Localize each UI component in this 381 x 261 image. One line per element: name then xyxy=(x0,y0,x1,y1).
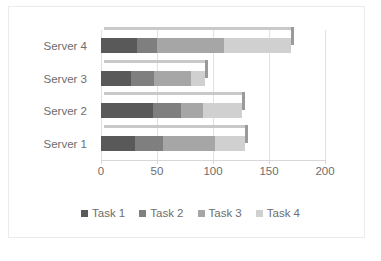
bar-segment-task-4[interactable] xyxy=(191,71,206,86)
bar-segment-task-2[interactable] xyxy=(131,71,153,86)
legend-swatch-icon xyxy=(256,210,263,217)
bar-row xyxy=(101,95,325,128)
legend-label: Task 1 xyxy=(92,207,125,219)
gridline-200 xyxy=(325,30,326,160)
bar-segment-task-3[interactable] xyxy=(163,136,216,151)
value-tick-mark xyxy=(101,160,102,164)
bar-segment-task-2[interactable] xyxy=(135,136,163,151)
value-tick-label: 50 xyxy=(151,165,164,177)
bar-segment-task-4[interactable] xyxy=(215,136,245,151)
bar-segment-task-2[interactable] xyxy=(137,38,157,53)
bar-segment-task-1[interactable] xyxy=(101,136,135,151)
bar-row xyxy=(101,128,325,161)
category-label: Server 1 xyxy=(44,128,87,161)
bar-segment-task-3[interactable] xyxy=(181,103,203,118)
stacked-bar[interactable] xyxy=(101,136,245,151)
bar-bevel-side xyxy=(242,92,245,110)
legend-item-task-2[interactable]: Task 2 xyxy=(139,207,183,219)
category-label: Server 2 xyxy=(44,95,87,128)
bars-layer xyxy=(101,30,325,160)
bar-bevel-side xyxy=(245,125,248,143)
legend-swatch-icon xyxy=(81,210,88,217)
bar-segment-task-4[interactable] xyxy=(224,38,291,53)
value-tick-mark xyxy=(325,160,326,164)
legend-item-task-1[interactable]: Task 1 xyxy=(81,207,125,219)
value-axis-labels: 050100150200 xyxy=(0,165,381,185)
bar-chart: Server 4Server 3Server 2Server 1 0501001… xyxy=(0,0,381,261)
legend-swatch-icon xyxy=(198,210,205,217)
value-tick-label: 100 xyxy=(203,165,222,177)
bar-segment-task-2[interactable] xyxy=(153,103,181,118)
bar-bevel-top xyxy=(104,92,245,95)
bar-segment-task-3[interactable] xyxy=(157,38,224,53)
bar-bevel-top xyxy=(104,125,248,128)
bar-segment-task-3[interactable] xyxy=(154,71,191,86)
value-tick-label: 0 xyxy=(98,165,104,177)
stacked-bar[interactable] xyxy=(101,71,205,86)
stacked-bar[interactable] xyxy=(101,103,242,118)
value-tick-mark xyxy=(213,160,214,164)
value-tick-mark xyxy=(157,160,158,164)
bar-segment-task-1[interactable] xyxy=(101,38,137,53)
legend-label: Task 4 xyxy=(267,207,300,219)
bar-segment-task-1[interactable] xyxy=(101,103,153,118)
bar-bevel-top xyxy=(104,60,208,63)
legend-swatch-icon xyxy=(139,210,146,217)
bar-segment-task-1[interactable] xyxy=(101,71,131,86)
legend-item-task-3[interactable]: Task 3 xyxy=(198,207,242,219)
legend-label: Task 3 xyxy=(209,207,242,219)
value-tick-mark xyxy=(269,160,270,164)
category-label: Server 3 xyxy=(44,63,87,96)
stacked-bar[interactable] xyxy=(101,38,291,53)
bar-bevel-side xyxy=(291,27,294,45)
legend-item-task-4[interactable]: Task 4 xyxy=(256,207,300,219)
bar-bevel-side xyxy=(205,60,208,78)
bar-row xyxy=(101,30,325,63)
category-label: Server 4 xyxy=(44,30,87,63)
bar-segment-task-4[interactable] xyxy=(203,103,242,118)
value-tick-label: 150 xyxy=(259,165,278,177)
category-axis-labels: Server 4Server 3Server 2Server 1 xyxy=(20,30,94,160)
bar-row xyxy=(101,63,325,96)
value-tick-label: 200 xyxy=(315,165,334,177)
bar-bevel-top xyxy=(104,27,294,30)
legend-label: Task 2 xyxy=(150,207,183,219)
chart-legend: Task 1Task 2Task 3Task 4 xyxy=(0,207,381,219)
